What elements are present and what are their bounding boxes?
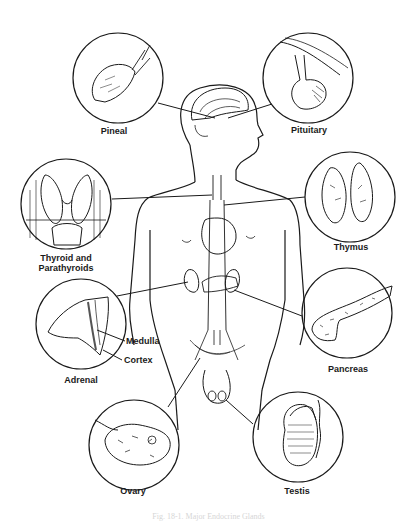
ovary-inset [89, 400, 179, 490]
label-pituitary: Pituitary [284, 125, 334, 135]
label-ovary: Ovary [110, 486, 156, 496]
label-testis: Testis [274, 486, 320, 496]
pineal-inset [73, 33, 163, 123]
label-adrenal: Adrenal [56, 375, 106, 385]
label-thyroid-line2: Parathyroids [30, 263, 102, 273]
leader-lines [112, 103, 305, 424]
testis-inset [253, 392, 343, 482]
label-pineal: Pineal [92, 126, 136, 136]
pituitary-inset [263, 33, 353, 123]
label-pancreas: Pancreas [322, 364, 374, 374]
figure-caption: Fig. 18-1. Major Endocrine Glands [0, 512, 417, 521]
adrenal-inset [36, 279, 126, 369]
label-thyroid-line1: Thyroid and [30, 253, 102, 263]
label-thymus: Thymus [326, 242, 376, 252]
label-cortex: Cortex [124, 355, 153, 365]
thymus-inset [305, 152, 395, 242]
label-medulla: Medulla [126, 336, 160, 346]
thyroid-inset [21, 159, 111, 249]
human-figure [129, 85, 304, 430]
pancreas-inset [302, 268, 392, 358]
